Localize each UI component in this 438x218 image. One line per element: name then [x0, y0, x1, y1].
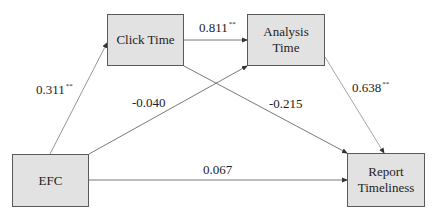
significance-marker: ** [382, 80, 389, 88]
coef-value: 0.638 [352, 80, 381, 95]
edge-efc-click-time [50, 43, 107, 154]
coef-efc-report-timeliness: 0.067 [203, 162, 232, 178]
coef-analysis-time-report-timeliness: 0.638** [352, 80, 389, 96]
coef-value: -0.215 [269, 96, 303, 111]
significance-marker: ** [229, 20, 236, 28]
node-analysis-time-line2: Time [273, 40, 300, 56]
coef-efc-analysis-time: -0.040 [132, 95, 166, 111]
coef-value: 0.067 [203, 162, 232, 177]
node-click-time-label: Click Time [116, 32, 174, 48]
coef-value: -0.040 [132, 95, 166, 110]
significance-marker: ** [66, 82, 73, 90]
coef-value: 0.811 [199, 20, 228, 35]
edge-efc-analysis-time [89, 66, 247, 154]
node-efc-label: EFC [39, 173, 63, 189]
edge-click-time-report-timeliness [184, 66, 347, 153]
node-analysis-time-line1: Analysis [263, 24, 309, 40]
node-report-timeliness: Report Timeliness [347, 153, 425, 207]
node-report-timeliness-line1: Report [368, 164, 403, 180]
node-click-time: Click Time [107, 14, 184, 66]
node-report-timeliness-line2: Timeliness [358, 180, 415, 196]
coef-value: 0.311 [36, 82, 65, 97]
edge-analysis-time-report-timeliness [325, 57, 384, 153]
node-analysis-time: Analysis Time [247, 14, 325, 66]
node-efc: EFC [12, 154, 89, 207]
coef-efc-click-time: 0.311** [36, 82, 73, 98]
path-diagram: Click Time Analysis Time EFC Report Time… [0, 0, 438, 218]
coef-click-time-report-timeliness: -0.215 [269, 96, 303, 112]
coef-click-time-analysis-time: 0.811** [199, 20, 236, 36]
